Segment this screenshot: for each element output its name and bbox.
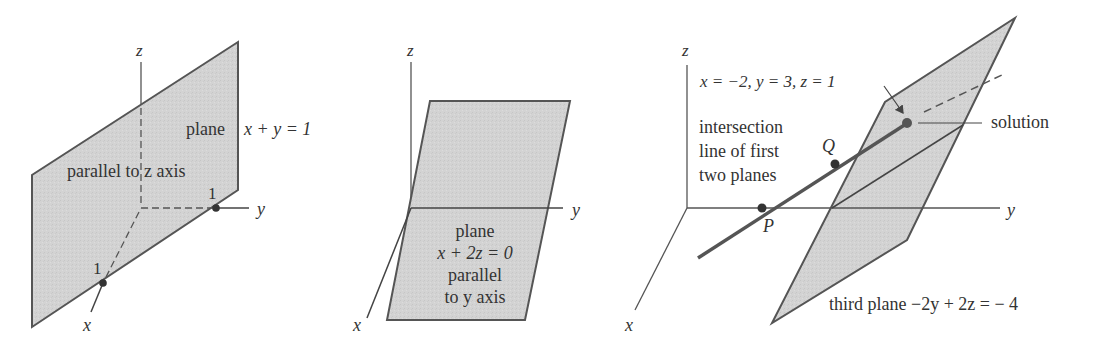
- solution-coordinates: x = −2, y = 3, z = 1: [699, 72, 836, 91]
- plane-description: parallel to z axis: [67, 161, 185, 181]
- plane-label: plane: [456, 221, 495, 241]
- solution-label: solution: [991, 112, 1049, 132]
- solution-point: [902, 118, 912, 128]
- intersection-label-line3: two planes: [699, 165, 776, 185]
- figure-3-third-plane-solution: z y x x = −2, y = 3, z = 1 solution inte…: [624, 18, 1049, 335]
- point-p-label: P: [762, 216, 774, 236]
- point-y-intercept: [212, 204, 220, 212]
- third-plane: [772, 18, 1015, 323]
- point-x-intercept: [99, 279, 107, 287]
- three-planes-diagram: z y x 1 1 plane x + y = 1 parallel to z …: [0, 0, 1099, 338]
- plane-equation: x + y = 1: [243, 119, 311, 139]
- axis-label-x: x: [624, 315, 633, 335]
- diagram-canvas: z y x 1 1 plane x + y = 1 parallel to z …: [0, 0, 1099, 338]
- axis-label-x: x: [352, 315, 361, 335]
- axis-label-y: y: [255, 199, 265, 219]
- axis-label-z: z: [135, 41, 143, 60]
- third-plane-label: third plane −2y + 2z = − 4: [829, 294, 1018, 314]
- point-q: [831, 160, 840, 169]
- intersection-label-line2: line of first: [699, 141, 779, 161]
- plane-description-line2: to y axis: [445, 287, 506, 307]
- point-q-label: Q: [822, 136, 835, 156]
- figure-1-plane-x-plus-y: z y x 1 1 plane x + y = 1 parallel to z …: [32, 41, 311, 335]
- x-axis: [635, 208, 687, 310]
- plane-equation: x + 2z = 0: [436, 243, 512, 263]
- axis-label-z: z: [681, 41, 689, 60]
- plane-description-line1: parallel: [448, 265, 502, 285]
- point-p: [758, 204, 767, 213]
- figure-2-plane-x-plus-2z: z y x plane x + 2z = 0 parallel to y axi…: [352, 41, 580, 335]
- plane-label: plane: [186, 119, 225, 139]
- tick-label-x-1: 1: [93, 259, 102, 278]
- axis-label-z: z: [406, 41, 414, 60]
- axis-label-y: y: [1005, 200, 1015, 220]
- tick-label-y-1: 1: [208, 184, 217, 203]
- axis-label-y: y: [570, 200, 580, 220]
- axis-label-x: x: [82, 315, 91, 335]
- intersection-label-line1: intersection: [699, 117, 783, 137]
